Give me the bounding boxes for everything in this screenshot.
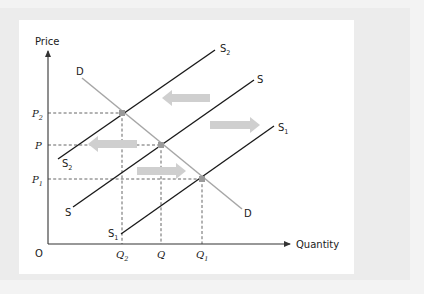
arrow-right-lower-icon — [137, 163, 186, 179]
x-axis-title: Quantity — [296, 239, 339, 250]
y-axis-title: Price — [35, 36, 59, 47]
supply-s2-label-bottom: S2 — [62, 158, 73, 172]
supply-demand-chart: Price Quantity O P2 P P1 Q2 Q Q1 D D S2 … — [0, 0, 424, 294]
equilibrium-point-e — [158, 142, 164, 148]
demand-label-top: D — [76, 66, 84, 77]
supply-s1-label-top: S1 — [278, 122, 289, 136]
demand-label-bottom: D — [244, 208, 252, 219]
supply-s-label-bottom: S — [65, 207, 71, 218]
equilibrium-point-e1 — [199, 176, 205, 182]
arrow-right-upper-icon — [210, 117, 260, 133]
equilibrium-point-e2 — [119, 110, 125, 116]
quantity-label-q2: Q2 — [116, 249, 128, 263]
quantity-label-q1: Q1 — [196, 249, 208, 263]
arrow-left-upper-icon — [162, 90, 210, 106]
supply-s2-label-top: S2 — [220, 43, 231, 57]
supply-s1-label-bottom: S1 — [108, 228, 119, 242]
origin-label: O — [35, 248, 43, 259]
supply-s-label-top: S — [257, 74, 263, 85]
price-label-p1: P1 — [31, 174, 43, 188]
arrow-left-lower-icon — [88, 136, 137, 152]
quantity-label-q: Q — [157, 249, 165, 260]
price-label-p: P — [34, 140, 42, 151]
price-label-p2: P2 — [31, 108, 43, 122]
